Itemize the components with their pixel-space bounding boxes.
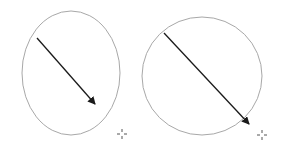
diagram-canvas xyxy=(0,0,283,151)
right-figure xyxy=(142,17,267,140)
left-figure xyxy=(22,11,127,139)
right-circle-outline xyxy=(142,17,262,135)
right-arrow xyxy=(164,33,249,124)
left-ellipse-outline xyxy=(22,11,120,135)
left-crosshair-icon xyxy=(117,129,127,139)
left-arrow xyxy=(37,38,95,104)
right-crosshair-icon xyxy=(257,130,267,140)
